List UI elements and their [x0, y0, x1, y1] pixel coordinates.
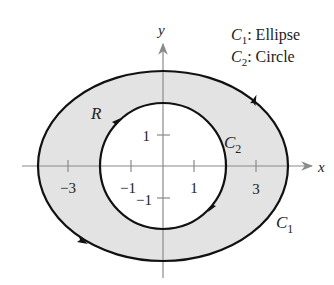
curve-label-c1: C1: [276, 213, 293, 236]
x-tick-label-neg1: −1: [120, 180, 136, 196]
x-tick-label-neg3: −3: [60, 180, 76, 196]
y-tick-label-neg1: −1: [136, 192, 152, 208]
legend-item-c1: C1: Ellipse: [231, 26, 300, 46]
svg-text:C1: C1: [276, 213, 293, 236]
x-tick-label-1: 1: [190, 180, 198, 196]
region-diagram: y x −3 −1 1 3 1 −1 R C2 C1 C1: Ellipse C…: [0, 0, 334, 285]
region-label: R: [90, 104, 102, 123]
x-axis-label: x: [317, 159, 325, 175]
y-tick-label-1: 1: [143, 128, 151, 144]
legend: C1: Ellipse C2: Circle: [231, 26, 300, 68]
legend-item-c2: C2: Circle: [231, 48, 295, 68]
y-axis-label: y: [156, 22, 165, 38]
x-tick-label-3: 3: [252, 181, 260, 197]
